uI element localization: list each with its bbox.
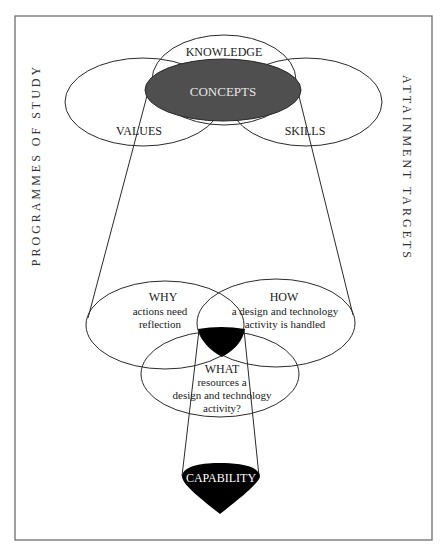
what-line1: resources a xyxy=(197,376,246,388)
why-title: WHY xyxy=(149,290,178,304)
side-label-attainment-targets: ATTAINMENT TARGETS xyxy=(400,75,414,261)
how-line2: activity is handled xyxy=(245,318,326,330)
how-line1: a design and technology xyxy=(232,305,339,317)
what-line3: activity? xyxy=(203,402,241,414)
side-label-programmes-of-study: PROGRAMMES OF STUDY xyxy=(29,64,43,266)
what-title: WHAT xyxy=(205,362,240,376)
capability-line-right xyxy=(244,330,259,476)
knowledge-label: KNOWLEDGE xyxy=(186,45,263,59)
capability-label: CAPABILITY xyxy=(186,471,257,485)
why-line2: reflection xyxy=(139,318,182,330)
why-line1: actions need xyxy=(133,305,188,317)
what-line2: design and technology xyxy=(173,389,272,401)
how-title: HOW xyxy=(270,290,299,304)
concepts-label: CONCEPTS xyxy=(190,84,256,99)
skills-label: SKILLS xyxy=(285,124,326,138)
capability-line-left xyxy=(182,330,199,476)
intersection-region xyxy=(198,327,245,357)
diagram-canvas: PROGRAMMES OF STUDY ATTAINMENT TARGETS K… xyxy=(0,0,446,553)
values-label: VALUES xyxy=(116,124,162,138)
